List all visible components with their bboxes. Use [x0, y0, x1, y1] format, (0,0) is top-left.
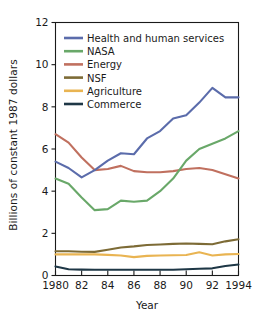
legend-group: Health and human servicesNASAEnergyNSFAg…: [64, 33, 224, 110]
x-tick-label: 1994: [225, 279, 252, 291]
axes-group: 02468101219808284868890921994: [35, 16, 252, 290]
x-tick-label: 88: [153, 279, 166, 291]
y-tick-label: 12: [35, 16, 48, 28]
y-tick-label: 2: [42, 227, 49, 239]
legend-label-energy: Energy: [87, 59, 122, 70]
series-line-commerce: [56, 265, 239, 270]
line-chart: Billions of constant 1987 dollars Year 0…: [0, 0, 264, 321]
series-group: [56, 88, 239, 270]
series-line-agriculture: [56, 252, 239, 257]
y-tick-label: 10: [35, 58, 48, 70]
series-line-nsf: [56, 239, 239, 252]
x-tick-label: 92: [206, 279, 219, 291]
x-tick-label: 84: [101, 279, 115, 291]
y-tick-label: 6: [42, 143, 49, 155]
plot-frame: [56, 23, 239, 276]
x-tick-label: 82: [75, 279, 88, 291]
y-tick-label: 8: [42, 101, 49, 113]
legend-label-agriculture: Agriculture: [87, 86, 142, 97]
plot-area: 02468101219808284868890921994 Health and…: [0, 0, 264, 321]
legend-label-commerce: Commerce: [87, 99, 141, 110]
legend-label-nasa: NASA: [87, 46, 115, 57]
series-line-energy: [56, 134, 239, 178]
x-tick-label: 90: [180, 279, 193, 291]
x-tick-label: 1980: [42, 279, 69, 291]
legend-label-nsf: NSF: [87, 73, 107, 84]
x-tick-label: 86: [127, 279, 141, 291]
series-line-health-and-human-services: [56, 88, 239, 178]
y-tick-label: 4: [42, 185, 49, 197]
legend-label-health-and-human-services: Health and human services: [87, 33, 224, 44]
